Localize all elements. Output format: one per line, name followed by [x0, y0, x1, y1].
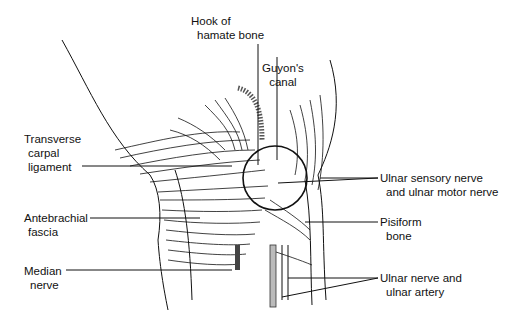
label-line: canal: [262, 75, 304, 89]
label-line: nerve: [24, 278, 62, 292]
label-guyons-canal: Guyon's canal: [262, 61, 304, 89]
label-hook-of-hamate: Hook of hamate bone: [191, 14, 264, 42]
label-transverse-carpal-ligament: Transverse carpal ligament: [24, 132, 81, 174]
label-pisiform-bone: Pisiform bone: [380, 215, 422, 243]
label-line: hamate bone: [191, 28, 264, 42]
label-line: ligament: [24, 160, 81, 174]
label-line: ulnar artery: [380, 285, 462, 299]
label-line: carpal: [24, 146, 81, 160]
anatomy-diagram: Hook of hamate bone Guyon's canal Transv…: [0, 0, 517, 327]
label-ulnar-sensory-motor-nerve: Ulnar sensory nerve and ulnar motor nerv…: [380, 171, 499, 199]
label-antebrachial-fascia: Antebrachial fascia: [24, 211, 88, 239]
label-line: Ulnar sensory nerve: [380, 171, 499, 185]
label-ulnar-nerve-artery: Ulnar nerve and ulnar artery: [380, 271, 462, 299]
label-line: Transverse: [24, 132, 81, 146]
label-line: fascia: [24, 225, 88, 239]
label-line: Median: [24, 264, 62, 278]
label-line: bone: [380, 229, 422, 243]
label-line: Antebrachial: [24, 211, 88, 225]
label-line: Hook of: [191, 14, 264, 28]
label-median-nerve: Median nerve: [24, 264, 62, 292]
label-line: and ulnar motor nerve: [380, 185, 499, 199]
label-line: Ulnar nerve and: [380, 271, 462, 285]
label-line: Pisiform: [380, 215, 422, 229]
label-line: Guyon's: [262, 61, 304, 75]
